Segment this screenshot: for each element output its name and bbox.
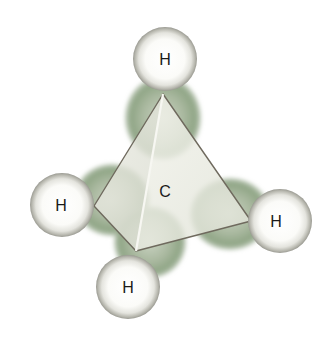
label-h-bottom: H [122,279,134,296]
label-h-right: H [270,213,282,230]
label-h-left: H [55,197,67,214]
tetrahedron [94,94,251,251]
methane-diagram: H H H H C [0,0,324,340]
label-c-center: C [159,183,171,200]
label-h-top: H [159,51,171,68]
